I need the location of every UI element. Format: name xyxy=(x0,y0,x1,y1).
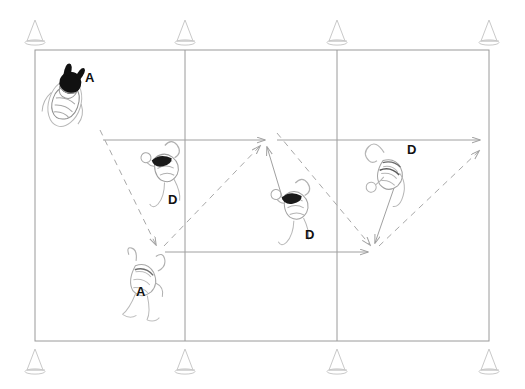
diagram-canvas xyxy=(0,0,525,389)
player-role-label: D xyxy=(305,228,314,241)
player-role-label: D xyxy=(168,193,177,206)
cone-icon xyxy=(175,349,195,374)
ball-path-arrow xyxy=(100,130,156,245)
cone-icon xyxy=(25,20,45,45)
cone-icon xyxy=(175,20,195,45)
player-role-label: D xyxy=(407,143,416,156)
player-figure-p5[interactable] xyxy=(359,143,411,208)
cone-icon xyxy=(327,20,347,45)
cone-row-bottom xyxy=(25,349,499,374)
cone-icon xyxy=(327,349,347,374)
ball-path-arrow xyxy=(277,133,370,245)
player-role-label: A xyxy=(85,71,94,84)
ball-path-arrows xyxy=(100,130,479,246)
player-figure-p2[interactable] xyxy=(138,140,190,207)
drill-diagram: A D A D D xyxy=(0,0,525,389)
ball-path-arrow xyxy=(379,151,479,246)
cone-icon xyxy=(479,349,499,374)
cone-icon xyxy=(479,20,499,45)
player-role-label: A xyxy=(136,285,145,298)
ball-path-arrow xyxy=(164,146,260,246)
cone-row-top xyxy=(25,20,499,45)
cone-icon xyxy=(25,349,45,374)
court-outline xyxy=(35,50,489,341)
